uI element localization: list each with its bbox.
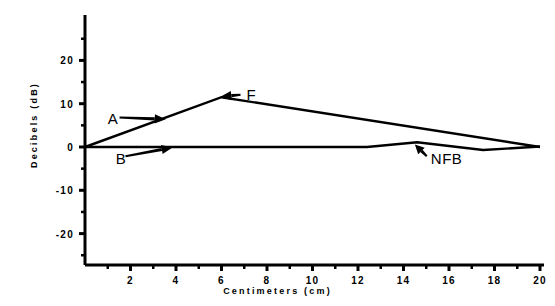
- arrow-shaft-b: [125, 148, 162, 157]
- chart-figure: Decibels (dB) Centimeters (cm) 20100-10-…: [0, 0, 555, 306]
- axes: [85, 15, 544, 265]
- series-line-B: [85, 142, 540, 150]
- series-line-A: [85, 97, 540, 147]
- axis-ticks: [79, 39, 540, 271]
- data-lines: [85, 97, 540, 150]
- plot-canvas: [0, 0, 555, 306]
- arrow-shaft-f: [231, 94, 240, 98]
- arrow-head-a: [155, 114, 166, 123]
- arrow-shaft-a: [120, 117, 155, 121]
